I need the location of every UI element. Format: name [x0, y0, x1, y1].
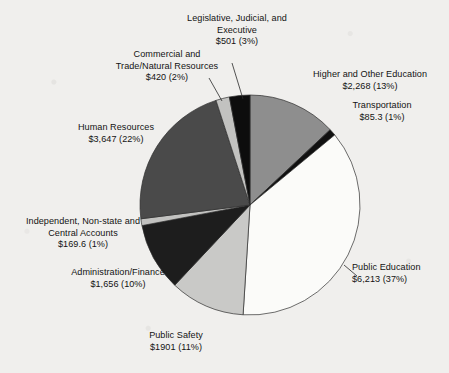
slice-label-commercial-line2: Trade/Natural Resources — [101, 61, 233, 73]
slice-value-higher-education: $2,268 (13%) — [296, 81, 444, 93]
slice-label-transportation-line1: Transportation — [320, 100, 444, 112]
slice-label-independent: Independent, Non-state and Central Accou… — [8, 216, 158, 251]
slice-label-administration-finance: Administration/Finance $1,656 (10%) — [46, 267, 190, 290]
slice-label-legislative-line2: Executive — [172, 25, 302, 37]
slice-value-independent: $169.6 (1%) — [8, 239, 158, 251]
slice-value-public-safety: $1901 (11%) — [115, 342, 237, 354]
slice-label-administration-finance-line1: Administration/Finance — [46, 267, 190, 279]
slice-label-public-safety: Public Safety $1901 (11%) — [115, 330, 237, 353]
slice-value-transportation: $85.3 (1%) — [320, 112, 444, 124]
slice-label-human-resources-line1: Human Resources — [52, 122, 180, 134]
slice-label-independent-line2: Central Accounts — [8, 228, 158, 240]
slice-label-public-education: Public Education $6,213 (37%) — [352, 262, 448, 285]
slice-label-public-education-line1: Public Education — [352, 262, 448, 274]
slice-label-legislative-line1: Legislative, Judicial, and — [172, 13, 302, 25]
slice-label-higher-education-line1: Higher and Other Education — [296, 69, 444, 81]
slice-value-administration-finance: $1,656 (10%) — [46, 279, 190, 291]
slice-label-higher-education: Higher and Other Education $2,268 (13%) — [296, 69, 444, 92]
slice-label-legislative: Legislative, Judicial, and Executive $50… — [172, 13, 302, 48]
slice-label-public-safety-line1: Public Safety — [115, 330, 237, 342]
slice-label-commercial: Commercial and Trade/Natural Resources $… — [101, 49, 233, 84]
slice-value-legislative: $501 (3%) — [172, 36, 302, 48]
slice-label-human-resources: Human Resources $3,647 (22%) — [52, 122, 180, 145]
slice-value-human-resources: $3,647 (22%) — [52, 134, 180, 146]
slice-value-public-education: $6,213 (37%) — [352, 274, 448, 286]
pie-chart: Legislative, Judicial, and Executive $50… — [0, 0, 449, 373]
slice-label-independent-line1: Independent, Non-state and — [8, 216, 158, 228]
slice-value-commercial: $420 (2%) — [101, 72, 233, 84]
slice-label-commercial-line1: Commercial and — [101, 49, 233, 61]
leader-line-legislative — [232, 63, 243, 99]
slice-label-transportation: Transportation $85.3 (1%) — [320, 100, 444, 123]
